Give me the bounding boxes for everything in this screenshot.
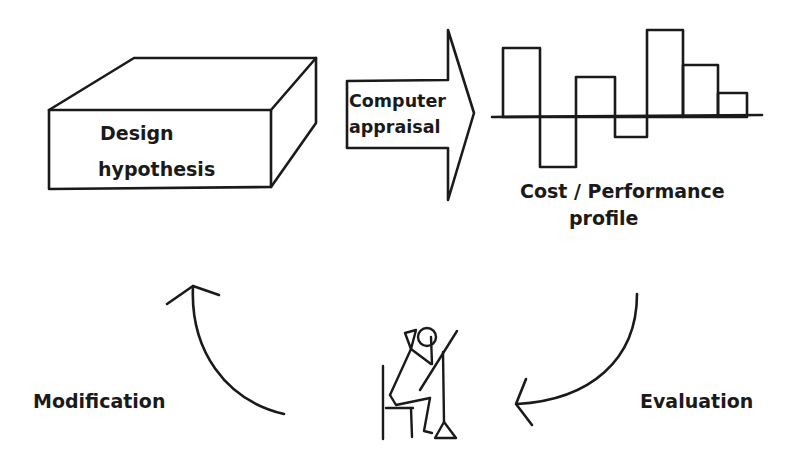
computer-appraisal-label-1: Computer [349,91,446,111]
computer-appraisal-label-2: appraisal [349,117,441,137]
evaluator-figure-icon [383,328,457,439]
chart-bar [615,117,647,137]
modification-label: Modification [33,390,165,412]
cost-performance-chart [503,30,747,167]
chart-bar [540,117,576,167]
modification-arrow [167,286,284,414]
design-hypothesis-label-1: Design [100,122,174,144]
chart-bar [683,65,718,117]
evaluation-label: Evaluation [640,390,753,412]
chart-caption-2: profile [569,207,639,229]
chart-bar [718,93,747,117]
evaluation-arrow [516,294,637,425]
chart-bar [576,77,615,117]
design-cycle-diagram: Design hypothesis Computer appraisal Cos… [0,0,803,468]
chart-caption-1: Cost / Performance [520,180,725,202]
computer-appraisal-arrow [347,30,474,200]
chart-bar [503,48,540,117]
chart-bar [647,30,683,117]
design-hypothesis-label-2: hypothesis [98,158,215,180]
